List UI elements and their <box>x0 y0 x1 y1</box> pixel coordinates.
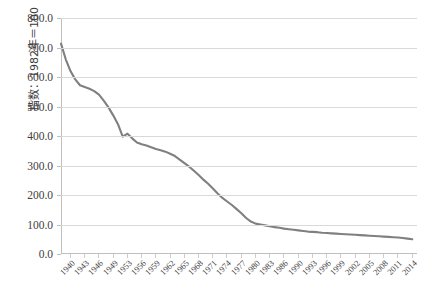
x-axis-tick-labels: 1940194319461949195319561959196219651968… <box>0 0 430 296</box>
line-chart: 指数：1982年＝100 0.0100.0200.0300.0400.0500.… <box>0 0 430 296</box>
